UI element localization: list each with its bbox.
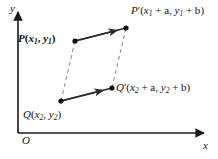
point-label-P-name: P	[18, 32, 25, 44]
arrowhead-p-to-pprime	[75, 31, 114, 41]
point-label-P-prime-name: P	[131, 4, 138, 16]
dashed-segment-pprime-to-qprime	[112, 28, 126, 88]
point-label-P-prime-close-paren: )	[200, 4, 204, 16]
diagram-canvas	[0, 0, 218, 159]
point-label-Q-prime: Q′(x2 + a, y2 + b)	[116, 82, 190, 94]
arrowhead-q-to-qprime	[61, 91, 100, 101]
point-label-Q-prime-plus-b: + b	[169, 81, 186, 93]
origin-label: O	[22, 135, 30, 146]
point-label-Q-prime-plus-a: + a	[139, 81, 156, 93]
translation-vector-diagram: y x O P(x1, y1) P′(x1 + a, y1 + b) Q(x2,…	[0, 0, 218, 159]
point-P-prime	[123, 25, 128, 30]
point-Q	[58, 98, 63, 103]
point-label-Q-close-paren: )	[57, 108, 61, 120]
point-label-Q-name: Q	[23, 108, 31, 120]
point-label-P-close-paren: )	[52, 32, 56, 44]
point-P	[72, 38, 77, 43]
y-axis-label: y	[10, 3, 15, 14]
point-label-P-prime: P′(x1 + a, y1 + b)	[131, 5, 204, 17]
x-axis-label: x	[203, 140, 208, 151]
dashed-segment-p-to-q	[61, 41, 75, 101]
point-label-Q-prime-name: Q	[116, 81, 124, 93]
point-label-Q: Q(x2, y2)	[23, 109, 61, 121]
point-label-P-prime-plus-a: + a	[152, 4, 169, 16]
point-label-P-prime-plus-b: + b	[183, 4, 200, 16]
point-Q-prime	[109, 85, 114, 90]
point-label-P: P(x1, y1)	[18, 33, 55, 45]
point-label-Q-prime-close-paren: )	[187, 81, 191, 93]
